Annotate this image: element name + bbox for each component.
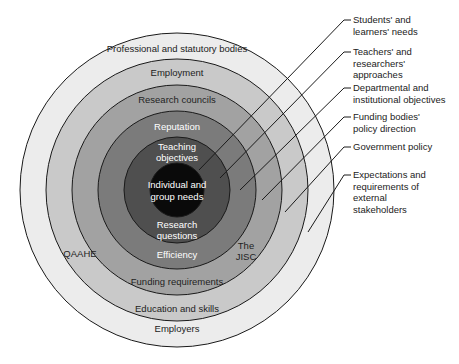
label-teaching-line1: Teaching — [158, 141, 196, 152]
label-jisc-line1: The — [238, 240, 254, 251]
label-funding-requirements: Funding requirements — [131, 276, 224, 287]
label-reputation: Reputation — [154, 121, 200, 132]
side-label-funding: Funding bodies' policy direction — [353, 111, 420, 134]
side-label-departmental: Departmental and institutional objective… — [353, 82, 445, 105]
side-label-government: Government policy — [353, 141, 432, 153]
label-research-line1: Research — [157, 219, 198, 230]
label-research-line2: questions — [157, 230, 198, 241]
label-employers: Employers — [155, 323, 200, 334]
side-label-students: Students' and learners' needs — [353, 14, 418, 37]
label-jisc-line2: JISC — [236, 251, 257, 262]
label-education-skills: Education and skills — [135, 303, 219, 314]
side-label-teachers: Teachers' and researchers' approaches — [353, 46, 412, 81]
label-individual-line2: group needs — [151, 191, 204, 202]
label-employment: Employment — [151, 67, 204, 78]
label-teaching-line2: objectives — [156, 152, 198, 163]
label-individual-line1: Individual and — [148, 179, 207, 190]
side-label-expectations: Expectations and requirements of externa… — [353, 169, 426, 215]
label-efficiency: Efficiency — [157, 249, 198, 260]
label-professional-bodies: Professional and statutory bodies — [107, 43, 248, 54]
label-qaahe: QAAHE — [63, 248, 96, 259]
label-research-councils: Research councils — [138, 94, 216, 105]
core-individual-needs — [150, 163, 204, 217]
